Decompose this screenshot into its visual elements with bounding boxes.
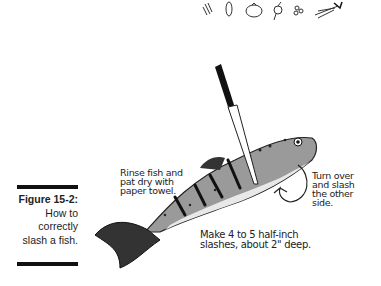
caption-line: correctly <box>16 220 78 234</box>
figure-caption: Figure 15-2: How to correctly slash a fi… <box>16 193 78 247</box>
bean-icon <box>226 2 232 16</box>
annotation-line: paper towel. <box>120 186 183 195</box>
turn-annotation: Turn over and slash the other side. <box>312 171 355 207</box>
caption-rule-bottom <box>17 262 78 266</box>
caption-rule-top <box>17 185 78 189</box>
header-icons <box>203 2 342 20</box>
radish-icon <box>274 2 282 20</box>
caption-line: slash a fish. <box>16 234 78 248</box>
make-annotation: Make 4 to 5 half-inch slashes, about 2" … <box>200 230 311 250</box>
annotation-line: slashes, about 2" deep. <box>200 240 311 250</box>
caption-line: How to <box>16 207 78 221</box>
peas-icon <box>294 6 303 15</box>
carrot-icon <box>315 2 342 18</box>
figure-number: Figure 15-2: <box>16 193 78 207</box>
annotation-line: side. <box>312 198 355 207</box>
tomato-icon <box>246 3 262 17</box>
rinse-annotation: Rinse fish and pat dry with paper towel. <box>120 168 183 195</box>
celery-icon <box>203 3 212 15</box>
